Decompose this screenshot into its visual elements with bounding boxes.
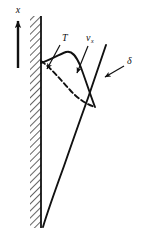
x-axis-label: x bbox=[15, 4, 21, 15]
boundary-layer-label: δ bbox=[127, 55, 132, 66]
figure-background bbox=[0, 0, 145, 232]
velocity-label-subscript: x bbox=[90, 38, 94, 44]
figure-container: x T vx δ bbox=[0, 0, 145, 232]
hatched-wall bbox=[30, 16, 41, 228]
wall-hatching bbox=[30, 16, 41, 228]
boundary-layer-figure: x T vx δ bbox=[0, 0, 145, 232]
